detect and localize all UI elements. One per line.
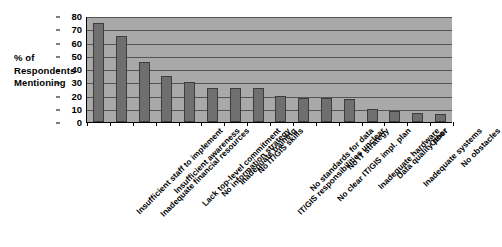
x-axis-tick-mark	[179, 122, 180, 126]
x-axis-tick-mark	[453, 122, 454, 126]
bar[interactable]	[435, 114, 446, 122]
y-axis-tick-70: 70	[71, 26, 82, 36]
y-axis-tick-40: 40	[71, 65, 82, 75]
bar[interactable]	[412, 113, 423, 122]
bar[interactable]	[230, 88, 241, 122]
y-axis-tick-mark	[56, 96, 60, 97]
y-axis-tick-mark	[56, 43, 60, 44]
y-axis-tick-30: 30	[71, 79, 82, 89]
bar[interactable]	[253, 88, 264, 122]
y-axis-tick-50: 50	[71, 52, 82, 62]
x-axis-tick-mark	[270, 122, 271, 126]
x-axis-tick-mark	[293, 122, 294, 126]
x-axis-label-8: No standards for data	[310, 127, 376, 193]
x-axis-tick-mark	[87, 122, 88, 126]
x-axis-tick-mark	[407, 122, 408, 126]
bar[interactable]	[139, 62, 150, 122]
y-axis-tick-mark	[56, 17, 60, 18]
y-axis-tick-mark	[56, 70, 60, 71]
y-axis-tick-80: 80	[71, 12, 82, 22]
x-axis-tick-marks	[87, 122, 452, 126]
x-axis-tick-mark	[247, 122, 248, 126]
x-axis-tick-mark	[110, 122, 111, 126]
bar[interactable]	[298, 98, 309, 122]
bar[interactable]	[184, 82, 195, 122]
x-axis-tick-mark	[316, 122, 317, 126]
bar[interactable]	[275, 96, 286, 123]
y-axis-tick-labels: 01020304050607080	[60, 17, 82, 123]
bar[interactable]	[389, 111, 400, 122]
y-axis-tick-10: 10	[71, 105, 82, 115]
bar-series	[87, 17, 452, 122]
bar[interactable]	[93, 23, 104, 122]
bar[interactable]	[116, 36, 127, 122]
y-axis-tick-0: 0	[77, 118, 82, 128]
x-axis-tick-mark	[339, 122, 340, 126]
x-axis-tick-mark	[133, 122, 134, 126]
y-axis-tick-mark	[56, 56, 60, 57]
bar[interactable]	[367, 109, 378, 122]
y-axis-tick-mark	[56, 30, 60, 31]
x-axis-tick-mark	[430, 122, 431, 126]
x-axis-tick-mark	[156, 122, 157, 126]
y-axis-tick-60: 60	[71, 39, 82, 49]
y-axis-tick-20: 20	[71, 92, 82, 102]
y-axis-tick-mark	[56, 83, 60, 84]
bar[interactable]	[321, 98, 332, 122]
x-axis-tick-mark	[224, 122, 225, 126]
x-axis-tick-mark	[201, 122, 202, 126]
x-axis-category-labels: Insufficient staff to implementInadequat…	[86, 127, 452, 245]
bar[interactable]	[161, 76, 172, 122]
bar[interactable]	[207, 88, 218, 122]
bar-chart: 01020304050607080	[86, 17, 452, 123]
y-axis-tick-mark	[56, 109, 60, 110]
y-axis-tick-mark	[56, 123, 60, 124]
bar[interactable]	[344, 99, 355, 122]
plot-area	[86, 17, 452, 123]
x-axis-tick-mark	[362, 122, 363, 126]
